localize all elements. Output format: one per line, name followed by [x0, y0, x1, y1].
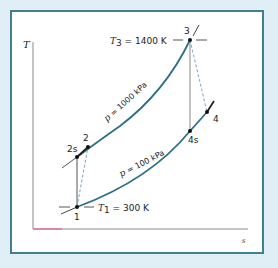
- label-point-4s: 4s: [188, 135, 199, 145]
- point-2: [86, 145, 90, 149]
- isobar-1000kpa-label: p = 1000 kPa: [102, 80, 149, 124]
- label-point-2s: 2s: [67, 144, 78, 154]
- process-3-4: [190, 40, 207, 112]
- point-4: [205, 110, 209, 114]
- s-axis-label: s: [242, 237, 246, 245]
- isobar-1000kpa-ext-left: [62, 157, 77, 168]
- label-point-4: 4: [213, 114, 219, 124]
- label-point-3: 3: [184, 26, 190, 36]
- point-1: [75, 205, 79, 209]
- t3-tick: [193, 25, 199, 36]
- t3-annotation: T3 = 1400 K: [110, 36, 168, 48]
- label-point-2: 2: [83, 133, 89, 143]
- point-2s: [75, 155, 79, 159]
- point-4s: [188, 129, 192, 133]
- label-point-1: 1: [74, 212, 80, 222]
- t1-annotation: T1 = 300 K: [98, 203, 150, 215]
- t-axis-label: T: [23, 39, 31, 50]
- ts-diagram: T s 1 2s 2 3 4s 4 T3 = 1400 K T1 = 300 K…: [0, 0, 278, 268]
- point-3: [188, 38, 192, 42]
